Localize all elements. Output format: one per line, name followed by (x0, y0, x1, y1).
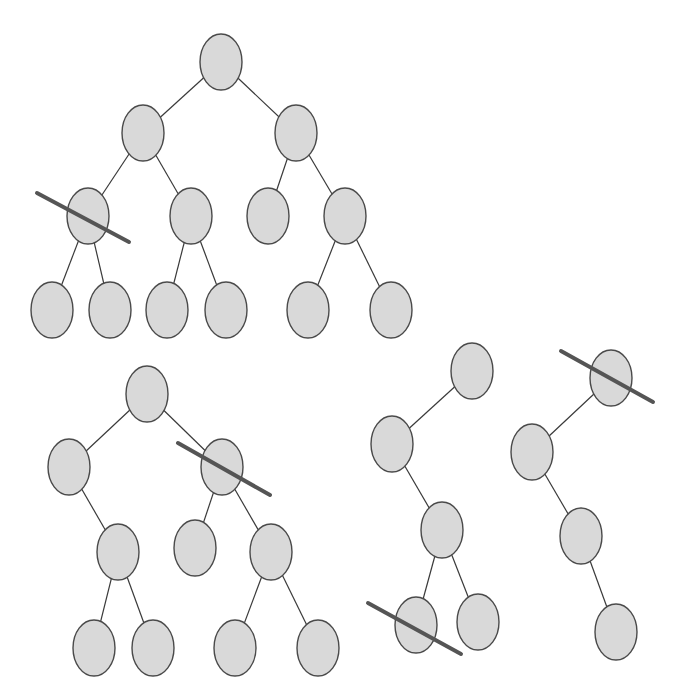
tree-3-nodes (371, 343, 499, 653)
tree-2-nodes (48, 366, 339, 676)
tree-node (48, 439, 90, 495)
tree-node-cut (395, 597, 437, 653)
tree-node (200, 34, 242, 90)
tree-node (324, 188, 366, 244)
tree-4-edges (532, 378, 616, 632)
tree-node (247, 188, 289, 244)
tree-node (205, 282, 247, 338)
tree-node (457, 594, 499, 650)
tree-node (73, 620, 115, 676)
tree-node (174, 520, 216, 576)
tree-node (560, 508, 602, 564)
tree-node (275, 105, 317, 161)
tree-node (421, 502, 463, 558)
tree-3-edges (392, 371, 478, 625)
tree-node (97, 524, 139, 580)
tree-node (132, 620, 174, 676)
tree-node (89, 282, 131, 338)
nodes-layer (31, 34, 637, 676)
tree-node (511, 424, 553, 480)
tree-node (297, 620, 339, 676)
tree-1-nodes (31, 34, 412, 338)
tree-node (31, 282, 73, 338)
tree-node (250, 524, 292, 580)
tree-node (287, 282, 329, 338)
tree-node (126, 366, 168, 422)
tree-4-nodes (511, 350, 637, 660)
tree-node (371, 416, 413, 472)
tree-diagram (0, 0, 685, 699)
tree-node (370, 282, 412, 338)
tree-node (122, 105, 164, 161)
tree-node (170, 188, 212, 244)
tree-node (214, 620, 256, 676)
tree-node (146, 282, 188, 338)
tree-node (595, 604, 637, 660)
tree-node (451, 343, 493, 399)
tree-node-cut (67, 188, 109, 244)
tree-1-edges (52, 62, 391, 310)
